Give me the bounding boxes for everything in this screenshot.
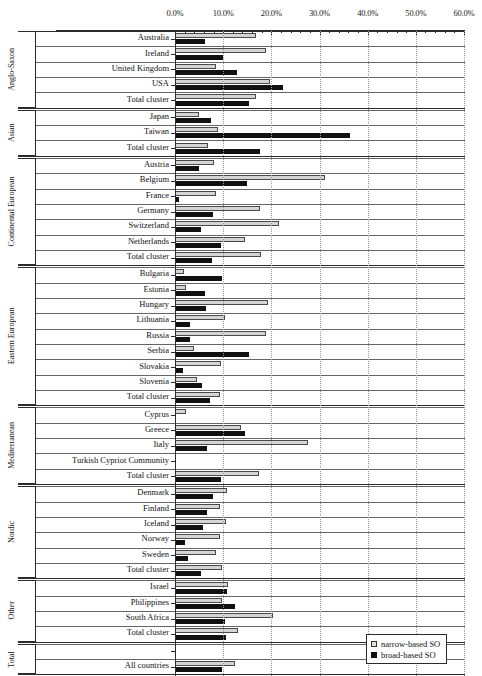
x-axis-tick-label: 0.0% (167, 8, 184, 18)
bar-narrow-based-so (175, 237, 245, 242)
bar-broad-based-so (175, 322, 190, 327)
row-label: Total cluster (127, 392, 169, 401)
bar-narrow-based-so (175, 440, 308, 445)
row-label: Israel (150, 582, 169, 591)
row-label: Total cluster (127, 143, 169, 152)
bar-narrow-based-so (175, 252, 261, 257)
row-separator (36, 359, 465, 360)
bar-broad-based-so (175, 70, 237, 75)
bar-broad-based-so (175, 133, 350, 138)
bar-broad-based-so (175, 243, 221, 248)
row-label: Iceland (144, 519, 169, 528)
cluster-label: Nordic (4, 486, 18, 578)
bar-narrow-based-so (175, 550, 216, 555)
cluster-bracket (18, 31, 36, 108)
bar-narrow-based-so (175, 112, 199, 117)
bar-narrow-based-so (175, 315, 225, 320)
bar-narrow-based-so (175, 191, 216, 196)
legend-label-broad: broad-based SO (381, 650, 436, 660)
gridline (368, 31, 370, 676)
row-separator (36, 267, 465, 268)
bar-broad-based-so (175, 667, 222, 672)
cluster-label: Eastern European (4, 267, 18, 405)
row-label: Total cluster (127, 95, 169, 104)
cluster-bracket (18, 580, 36, 641)
row-separator (36, 438, 465, 439)
row-separator (36, 110, 465, 111)
bar-broad-based-so (175, 589, 227, 594)
row-separator (36, 92, 465, 93)
cluster-bracket (18, 486, 36, 578)
row-separator (36, 517, 465, 518)
row-separator (36, 329, 465, 330)
row-separator (36, 313, 465, 314)
x-axis-tick-label: 60.0% (454, 8, 475, 18)
cluster-separator (18, 108, 465, 109)
x-axis-tick-label: 20.0% (261, 8, 282, 18)
row-separator (36, 611, 465, 612)
bar-narrow-based-so (175, 221, 279, 226)
bar-broad-based-so (175, 571, 201, 576)
row-separator (36, 62, 465, 63)
bar-broad-based-so (175, 101, 249, 106)
bar-narrow-based-so (175, 346, 194, 351)
cluster-label: Mediterranean (4, 407, 18, 484)
row-separator (36, 140, 465, 141)
bar-narrow-based-so (175, 425, 241, 430)
bar-narrow-based-so (175, 331, 266, 336)
plot-area: AustraliaIrelandUnited KingdomUSATotal c… (0, 31, 482, 676)
cluster-bracket (18, 267, 36, 405)
row-label: All countries (125, 661, 169, 670)
cluster-label: Total (4, 644, 18, 675)
row-label: Slovakia (139, 362, 169, 371)
row-label: Philippines (131, 598, 169, 607)
row-separator (36, 486, 465, 487)
bar-narrow-based-so (175, 127, 218, 132)
row-label: Denmark (137, 488, 169, 497)
row-label: Italy (153, 440, 169, 449)
bar-broad-based-so (175, 118, 211, 123)
bar-narrow-based-so (175, 300, 268, 305)
bar-narrow-based-so (175, 33, 256, 38)
bar-broad-based-so (175, 525, 203, 530)
x-axis-tick-labels: 0.0%10.0%20.0%30.0%40.0%50.0%60.0% (0, 8, 482, 22)
row-label: France (146, 191, 169, 200)
cluster-bracket (18, 644, 36, 675)
bar-broad-based-so (175, 212, 213, 217)
row-label: USA (152, 79, 169, 88)
row-label: Austria (144, 160, 169, 169)
bar-narrow-based-so (175, 377, 197, 382)
row-label: Total cluster (127, 252, 169, 261)
bar-narrow-based-so (175, 598, 222, 603)
row-label: Total cluster (127, 565, 169, 574)
bar-narrow-based-so (175, 206, 260, 211)
row-label: United Kingdom (112, 64, 169, 73)
bar-broad-based-so (175, 398, 210, 403)
row-separator (36, 580, 465, 581)
bar-narrow-based-so (175, 361, 221, 366)
cluster-separator (18, 674, 465, 675)
row-label: Netherlands (128, 237, 169, 246)
row-label: Total cluster (127, 471, 169, 480)
bar-broad-based-so (175, 276, 222, 281)
cluster-label: Anglo-Saxon (4, 31, 18, 108)
gridline (271, 31, 273, 676)
row-label: Finland (143, 504, 169, 513)
cluster-label: Asian (4, 110, 18, 156)
x-axis-tick-label: 10.0% (213, 8, 234, 18)
row-label: Japan (150, 112, 169, 121)
bar-narrow-based-so (175, 565, 222, 570)
cluster-bracket (18, 110, 36, 156)
row-label: Norway (142, 534, 169, 543)
bar-narrow-based-so (175, 94, 256, 99)
bar-narrow-based-so (175, 175, 325, 180)
row-label: Ireland (145, 49, 169, 58)
row-label: Switzerland (128, 221, 169, 230)
row-separator (36, 125, 465, 126)
bar-narrow-based-so (175, 143, 208, 148)
bar-broad-based-so (175, 510, 207, 515)
row-separator (36, 189, 465, 190)
row-separator (36, 375, 465, 376)
cluster-label: Continental European (4, 158, 18, 265)
row-separator (36, 204, 465, 205)
